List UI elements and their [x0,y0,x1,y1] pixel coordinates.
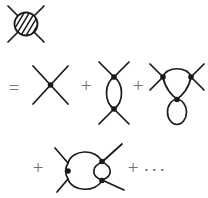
vertex-dot [99,178,105,184]
tadpole-left-leg [163,77,177,99]
sunset-inner-right-arc [102,162,110,180]
plus-sign-4: + [128,157,139,178]
vertex-dot [111,106,117,112]
sunset-outer-upper-arc [68,152,102,163]
term-two-loop-sunset [55,144,124,192]
tadpole-loop [168,100,187,125]
term-one-loop-bubble [99,62,129,124]
vertex-dot [111,74,117,80]
vertex-dot [160,74,166,80]
bubble-arc-right [114,77,122,109]
plus-sign-2: + [133,75,144,96]
term-full-four-point-vertex-blob [1,4,44,46]
term-loop-with-tadpole [150,64,204,125]
vertex-dot [65,168,71,174]
plus-sign-3: + [33,157,44,178]
diagram-canvas: = + + [0,0,208,198]
sunset-outer-lower-arc [68,179,102,189]
sunset-inner-left-arc [94,162,102,180]
tadpole-top-arc [163,69,191,77]
term-tree-level-vertex [33,66,68,104]
plus-sign-1: + [81,75,92,96]
tadpole-right-leg [177,77,191,99]
vertex-dot [99,159,105,165]
external-legs-bubble [99,62,129,124]
vertex-dot [188,74,194,80]
vertex-dot [174,97,180,103]
equals-sign: = [9,77,20,98]
ellipsis: ··· [143,159,166,180]
vertex-dot [48,82,54,88]
feynman-diagram-figure: = + + [0,0,208,198]
bubble-arc-left [107,77,115,109]
